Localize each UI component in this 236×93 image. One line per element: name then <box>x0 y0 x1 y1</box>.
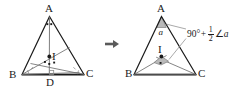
left-label-b: B <box>9 69 16 80</box>
left-label-c: C <box>86 68 93 79</box>
right-label-c: C <box>198 68 205 79</box>
left-label-a: A <box>45 3 53 14</box>
left-angle-tick-i2 <box>48 63 50 65</box>
left-angle-tick-a2 <box>50 23 52 25</box>
left-triangle-outline <box>22 17 84 75</box>
figure-canvas: A B C I D A B C I a 90° + 1 2 ∠ a <box>0 0 236 93</box>
left-bisector-tick-c <box>73 67 75 69</box>
formula-fraction-denominator: 2 <box>208 34 214 43</box>
formula-fraction: 1 2 <box>208 26 214 43</box>
right-angle-tick-i <box>160 62 162 64</box>
incenter-angle-formula: 90° + 1 2 ∠ a <box>187 26 228 43</box>
formula-angle-name: a <box>224 30 229 40</box>
right-arrow-icon <box>105 40 119 48</box>
leader-line-to-angle-i <box>169 39 186 60</box>
right-label-b: B <box>125 68 132 79</box>
left-angle-tick-a1 <box>46 23 48 25</box>
left-incenter-point <box>47 55 51 59</box>
right-label-a: A <box>157 3 165 14</box>
right-label-i: I <box>158 44 162 55</box>
left-label-i: I <box>52 51 56 62</box>
right-angle-a-label: a <box>159 28 164 37</box>
formula-angle-symbol: ∠ <box>215 30 224 40</box>
formula-fraction-numerator: 1 <box>208 26 214 34</box>
formula-lead: 90° <box>187 30 200 40</box>
right-incenter-point <box>160 55 164 59</box>
leader-line-to-angle-a <box>167 24 186 29</box>
left-angle-tick-i1 <box>44 61 46 63</box>
formula-plus: + <box>201 30 206 40</box>
left-label-d: D <box>46 77 54 88</box>
geometry-drawing <box>0 0 236 93</box>
